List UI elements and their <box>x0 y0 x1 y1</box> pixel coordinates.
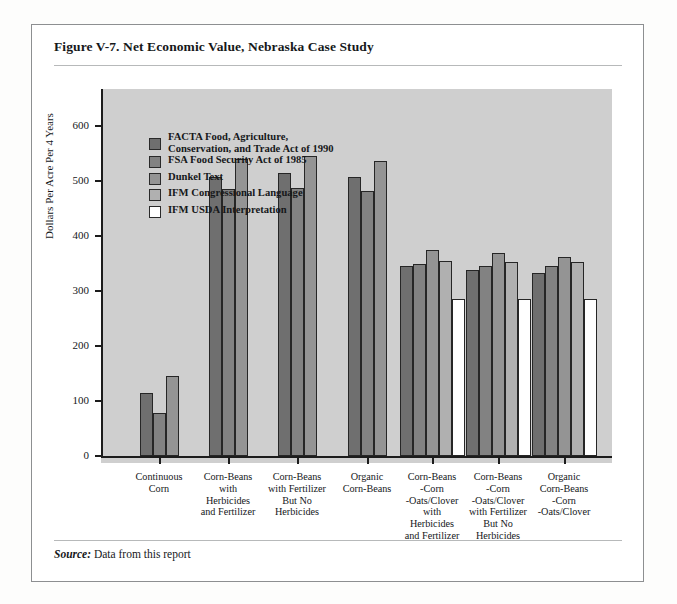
y-axis-tick-label: 100 <box>29 394 89 406</box>
y-axis-tick-label: 500 <box>29 174 89 186</box>
y-axis-tick-label: 300 <box>29 284 89 296</box>
source-divider <box>54 540 622 541</box>
y-axis-tick-label: 400 <box>29 229 89 241</box>
bar <box>518 299 531 456</box>
bar <box>571 262 584 456</box>
x-axis-tick <box>367 458 369 464</box>
bar <box>400 266 413 456</box>
x-axis-tick <box>297 458 299 464</box>
legend-item-label: IFM Congressional Language <box>168 187 303 199</box>
legend-item-label: FACTA Food, Agriculture,Conservation, an… <box>168 131 334 154</box>
x-axis-tick <box>228 458 230 464</box>
bar <box>374 161 387 456</box>
legend-swatch-icon <box>149 138 161 150</box>
bar <box>166 376 179 456</box>
figure-page: Figure V-7. Net Economic Value, Nebraska… <box>0 0 677 604</box>
y-axis-tick <box>95 290 101 292</box>
y-axis-tick-label: 200 <box>29 339 89 351</box>
bar <box>558 257 571 456</box>
bar <box>278 173 291 456</box>
y-axis-tick <box>95 345 101 347</box>
figure-title: Figure V-7. Net Economic Value, Nebraska… <box>54 39 374 55</box>
legend-swatch-icon <box>149 156 161 168</box>
legend-item-label: IFM USDA Interpretation <box>168 204 287 216</box>
bar <box>348 177 361 456</box>
legend-swatch-icon <box>149 173 161 185</box>
bar <box>426 250 439 456</box>
x-axis-tick <box>498 458 500 464</box>
y-axis-tick-label: 0 <box>29 449 89 461</box>
x-axis-tick <box>564 458 566 464</box>
bar <box>466 270 479 456</box>
source-label: Source: <box>54 548 91 560</box>
bar <box>505 262 518 456</box>
y-axis-line <box>101 89 103 458</box>
bar <box>479 266 492 456</box>
bar <box>291 188 304 456</box>
y-axis-tick <box>95 400 101 402</box>
x-axis-tick <box>159 458 161 464</box>
bar <box>532 273 545 456</box>
bar <box>545 266 558 456</box>
bar <box>439 261 452 456</box>
bar <box>492 253 505 457</box>
chart-plot-area: Dollars Per Acre Per 4 Years 01002003004… <box>101 89 612 463</box>
legend-item-label: Dunkel Text <box>168 171 223 183</box>
x-axis-line <box>101 456 612 458</box>
x-axis-tick <box>432 458 434 464</box>
title-divider <box>54 65 622 66</box>
figure-frame: Figure V-7. Net Economic Value, Nebraska… <box>31 24 644 582</box>
source-note: Source: Data from this report <box>54 548 191 560</box>
x-axis-category-label: OrganicCorn-Beans-Corn-Oats/Clover <box>522 471 606 518</box>
bar <box>209 177 222 456</box>
y-axis-tick-label: 600 <box>29 119 89 131</box>
y-axis-tick <box>95 125 101 127</box>
y-axis-tick <box>95 235 101 237</box>
legend-swatch-icon <box>149 206 161 218</box>
bar <box>452 299 465 456</box>
source-text: Data from this report <box>91 548 191 560</box>
bar <box>361 191 374 456</box>
bar <box>153 413 166 456</box>
y-axis-tick <box>95 455 101 457</box>
bar <box>222 189 235 456</box>
bar <box>413 264 426 457</box>
legend-item-label: FSA Food Security Act of 1985 <box>168 154 307 166</box>
bar <box>140 393 153 456</box>
legend-swatch-icon <box>149 189 161 201</box>
bar <box>304 156 317 456</box>
y-axis-tick <box>95 180 101 182</box>
bar <box>584 299 597 456</box>
